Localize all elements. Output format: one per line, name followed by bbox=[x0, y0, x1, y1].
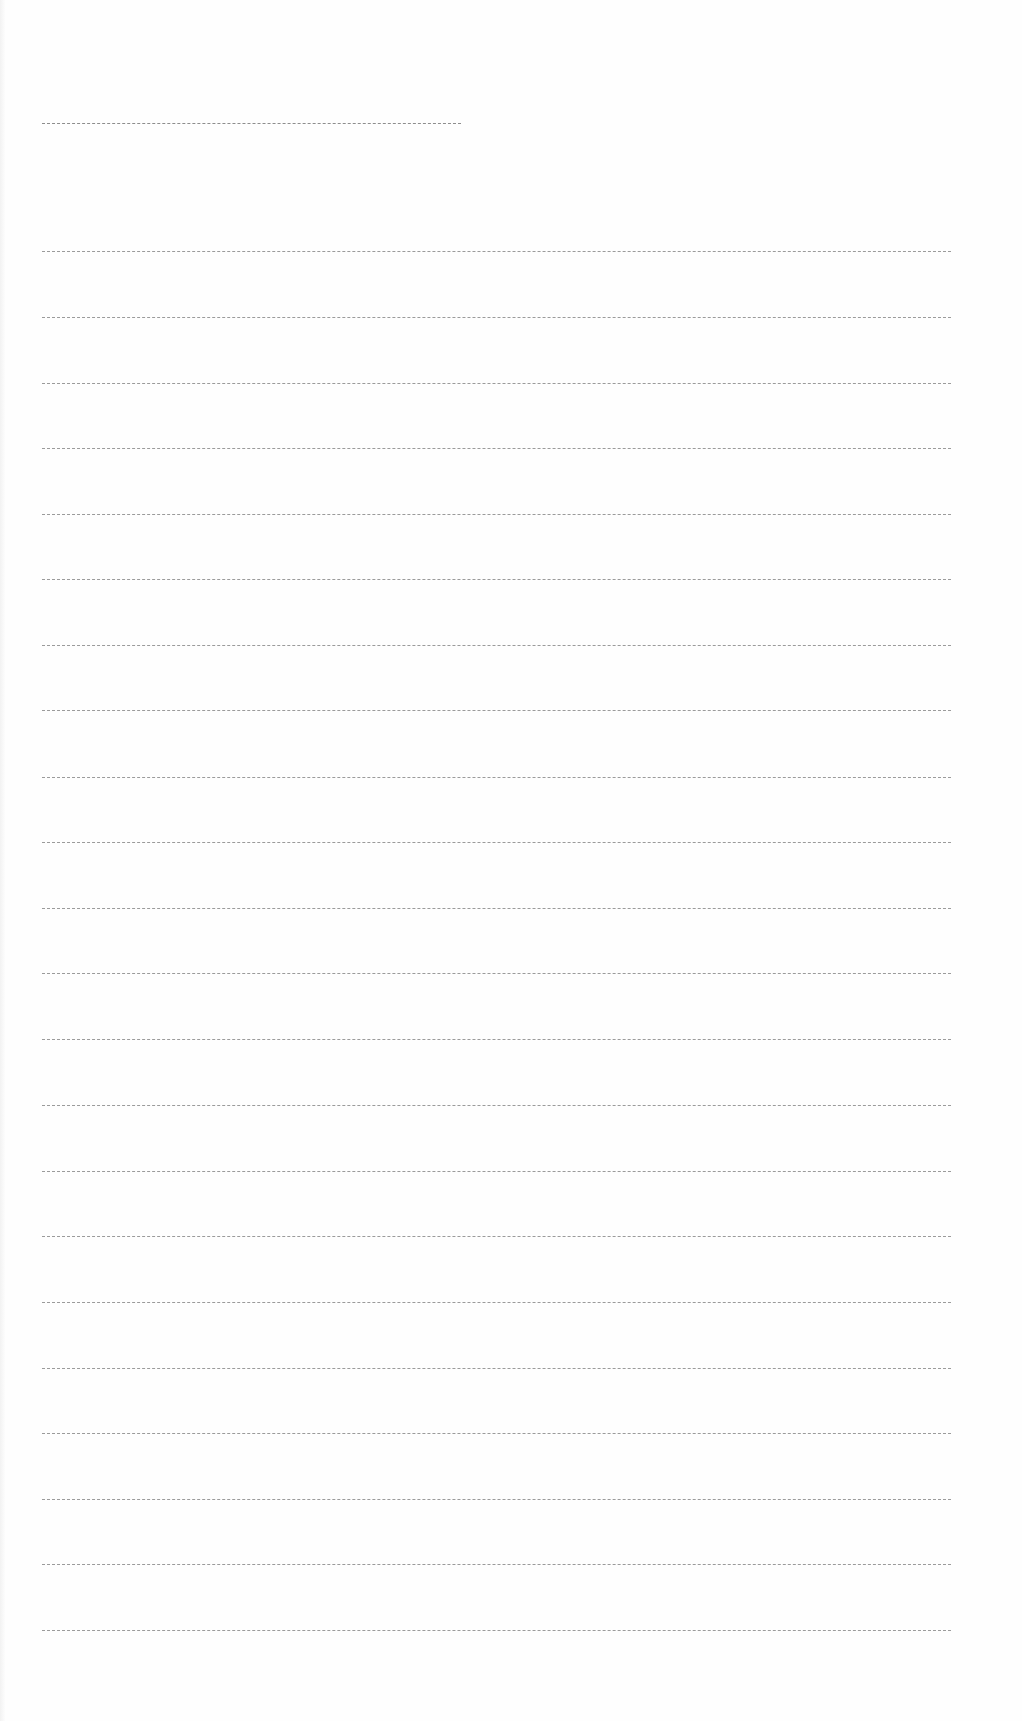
page-edge-shadow bbox=[0, 0, 6, 1721]
ruled-line bbox=[42, 1368, 951, 1370]
ruled-line bbox=[42, 777, 951, 779]
ruled-line bbox=[42, 908, 951, 910]
ruled-line bbox=[42, 1171, 951, 1173]
title-line bbox=[42, 123, 461, 125]
ruled-line bbox=[42, 383, 951, 385]
ruled-line bbox=[42, 514, 951, 516]
ruled-line bbox=[42, 448, 951, 450]
ruled-line bbox=[42, 1433, 951, 1435]
lined-page bbox=[0, 0, 1022, 1721]
ruled-line bbox=[42, 317, 951, 319]
ruled-line bbox=[42, 1039, 951, 1041]
ruled-line bbox=[42, 1302, 951, 1304]
ruled-line bbox=[42, 1630, 951, 1632]
ruled-line bbox=[42, 710, 951, 712]
ruled-line bbox=[42, 1105, 951, 1107]
ruled-line bbox=[42, 579, 951, 581]
ruled-line bbox=[42, 1499, 951, 1501]
ruled-line bbox=[42, 645, 951, 647]
ruled-line bbox=[42, 1564, 951, 1566]
ruled-line bbox=[42, 1236, 951, 1238]
ruled-line bbox=[42, 973, 951, 975]
ruled-line bbox=[42, 251, 951, 253]
ruled-line bbox=[42, 842, 951, 844]
